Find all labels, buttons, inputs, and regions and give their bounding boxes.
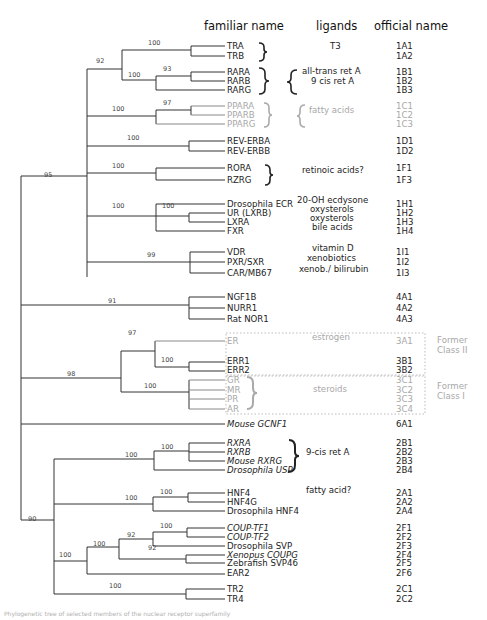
ligand-label: fatty acids: [309, 105, 354, 115]
official-name: 3C4: [396, 404, 413, 414]
official-name: 3C1: [396, 375, 413, 385]
former-class-label: Class II: [437, 345, 467, 355]
official-name: 1H4: [396, 226, 413, 236]
nuclear-receptor-phylogeny: familiar name ligands official name TRA1…: [0, 0, 487, 620]
official-name: 4A2: [396, 303, 413, 313]
header-ligands: ligands: [316, 21, 357, 31]
leaf-label: PR: [227, 394, 238, 404]
official-name: 1F1: [396, 163, 412, 173]
ligand-label: retinoic acids?: [302, 165, 364, 175]
ligand-label: 9-cis ret A: [306, 447, 350, 457]
ligand-label: T3: [330, 41, 341, 51]
ligand-label: vitamin D: [312, 243, 354, 253]
ligand-label: xenob./ bilirubin: [299, 264, 369, 274]
leaf-label: ERR2: [227, 365, 250, 375]
official-name: 2F5: [396, 558, 412, 568]
leaf-label: RZRG: [227, 175, 252, 185]
bootstrap-value: 93: [163, 64, 171, 74]
figure-caption: Phylogenetic tree of selected members of…: [4, 609, 230, 619]
bootstrap-value: 100: [109, 581, 121, 591]
former-class-label: Former: [437, 335, 467, 345]
bootstrap-value: 97: [163, 98, 171, 108]
bootstrap-value: 97: [128, 328, 136, 338]
ligand-label: bile acids: [312, 222, 353, 232]
official-name: 2B4: [396, 465, 413, 475]
official-name: 1I2: [396, 257, 409, 267]
official-name: 3A1: [396, 336, 413, 346]
official-name: 4A1: [396, 292, 413, 302]
bootstrap-value: 100: [128, 70, 140, 80]
official-name: 3C3: [396, 394, 413, 404]
bootstrap-value: 100: [93, 539, 105, 549]
leaf-label: NURR1: [227, 303, 257, 313]
official-name: 4A3: [396, 314, 413, 324]
leaf-label: RORA: [227, 163, 251, 173]
official-name: 2C2: [396, 594, 413, 604]
leaf-label: PXR/SXR: [227, 257, 264, 267]
leaf-label: FXR: [227, 226, 244, 236]
bootstrap-value: 100: [148, 38, 160, 48]
bootstrap-value: 100: [160, 521, 172, 531]
header-familiar-name: familiar name: [204, 21, 284, 31]
former-class-label: Former: [437, 381, 467, 391]
official-name: 3B2: [396, 365, 413, 375]
bootstrap-value: 100: [112, 161, 124, 171]
bootstrap-value: 100: [161, 442, 173, 452]
leaf-label: TRA: [227, 41, 244, 51]
bootstrap-value: 91: [108, 296, 116, 306]
leaf-label: REV-ERBB: [227, 146, 270, 156]
official-name: 1D2: [396, 146, 414, 156]
bootstrap-value: 100: [160, 487, 172, 497]
bootstrap-value: 95: [44, 170, 52, 180]
official-name: 1F3: [396, 175, 412, 185]
bootstrap-value: 100: [125, 450, 137, 460]
official-name: 1A1: [396, 41, 413, 51]
leaf-label: Zebrafish SVP46: [227, 558, 298, 568]
bootstrap-value: 100: [144, 381, 156, 391]
leaf-label: GR: [227, 375, 240, 385]
official-name: 2C1: [396, 584, 413, 594]
leaf-label: Rat NOR1: [227, 314, 269, 324]
bootstrap-value: 100: [127, 133, 139, 143]
bootstrap-value: 100: [112, 201, 124, 211]
bootstrap-value: 98: [67, 369, 75, 379]
official-name: 1I1: [396, 247, 409, 257]
header-official-name: official name: [374, 21, 448, 31]
bootstrap-value: 92: [96, 56, 104, 66]
leaf-label: CAR/MB67: [227, 268, 272, 278]
leaf-label: TRB: [227, 51, 244, 61]
leaf-label: EAR2: [227, 568, 250, 578]
bootstrap-value: 92: [148, 543, 156, 553]
ligand-label: xenobiotics: [307, 253, 356, 263]
leaf-label: TR2: [227, 584, 244, 594]
leaf-label: TR4: [227, 594, 244, 604]
bootstrap-value: 100: [112, 104, 124, 114]
official-name: 1I3: [396, 268, 409, 278]
official-name: 6A1: [396, 419, 413, 429]
bootstrap-value: 90: [28, 514, 36, 524]
official-name: 2A4: [396, 506, 413, 516]
leaf-label: Drosophila USP: [227, 465, 293, 475]
leaf-label: AR: [227, 404, 239, 414]
official-name: 1C3: [396, 119, 413, 129]
bootstrap-value: 100: [59, 550, 71, 560]
leaf-label: NGF1B: [227, 292, 256, 302]
leaf-label: RARG: [227, 85, 251, 95]
ligand-label: all-trans ret A: [302, 66, 361, 76]
ligand-label: steroids: [313, 384, 347, 394]
official-name: 1D1: [396, 136, 414, 146]
former-class-label: Class I: [437, 391, 465, 401]
ligand-label: fatty acid?: [306, 485, 351, 495]
official-name: 2F6: [396, 568, 412, 578]
leaf-label: REV-ERBA: [227, 136, 270, 146]
bootstrap-value: 100: [162, 201, 174, 211]
official-name: 1B3: [396, 85, 413, 95]
bootstrap-value: 100: [125, 493, 137, 503]
bootstrap-value: 92: [127, 530, 135, 540]
ligand-label: estrogen: [312, 332, 350, 342]
leaf-label: PPARG: [227, 119, 255, 129]
leaf-label: ER: [227, 336, 238, 346]
leaf-label: Mouse GCNF1: [227, 419, 287, 429]
ligand-label: 9 cis ret A: [311, 76, 354, 86]
bootstrap-value: 100: [161, 355, 173, 365]
